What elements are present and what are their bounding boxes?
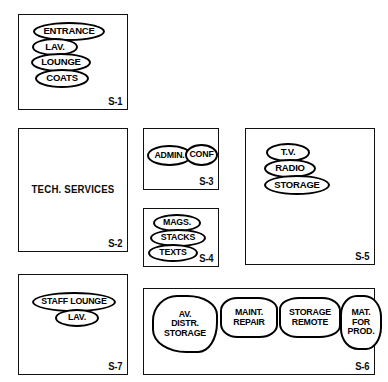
bubble-storage[interactable]: STORAGE: [264, 175, 330, 195]
bubble-av-distr-storage[interactable]: AV. DISTR. STORAGE: [152, 295, 218, 353]
zone-code-s-3: S-3: [199, 175, 213, 187]
zone-code-s-4: S-4: [199, 252, 213, 264]
zone-s-4[interactable]: MAGS. STACKS TEXTS S-4: [143, 208, 219, 267]
zone-s-2[interactable]: TECH. SERVICES S-2: [18, 128, 128, 252]
zone-code-s-2: S-2: [108, 237, 122, 249]
zone-s-7[interactable]: STAFF LOUNGE LAV. S-7: [18, 274, 128, 375]
zone-code-s-6: S-6: [355, 360, 369, 372]
zone-title-tech-services: TECH. SERVICES: [23, 183, 122, 195]
bubble-staff-lav[interactable]: LAV.: [55, 309, 99, 327]
bubble-conf[interactable]: CONF: [185, 144, 218, 166]
bubble-diagram-canvas: ENTRANCE LAV. LOUNGE COATS S-1 TECH. SER…: [0, 0, 388, 382]
bubble-mat-for-prod[interactable]: MAT. FOR PROD.: [340, 295, 382, 350]
zone-code-s-7: S-7: [108, 360, 122, 372]
zone-code-s-1: S-1: [108, 95, 122, 107]
zone-s-5[interactable]: T.V. RADIO STORAGE S-5: [245, 128, 375, 265]
zone-code-s-5: S-5: [355, 250, 369, 262]
bubble-texts[interactable]: TEXTS: [148, 244, 198, 262]
bubble-storage-remote[interactable]: STORAGE REMOTE: [279, 297, 341, 338]
zone-s-6[interactable]: AV. DISTR. STORAGE MAINT. REPAIR STORAGE…: [143, 288, 375, 375]
bubble-maint-repair[interactable]: MAINT. REPAIR: [220, 297, 278, 338]
bubble-coats[interactable]: COATS: [35, 69, 89, 88]
zone-s-3[interactable]: ADMIN. CONF S-3: [143, 128, 219, 190]
zone-s-1[interactable]: ENTRANCE LAV. LOUNGE COATS S-1: [18, 14, 128, 110]
